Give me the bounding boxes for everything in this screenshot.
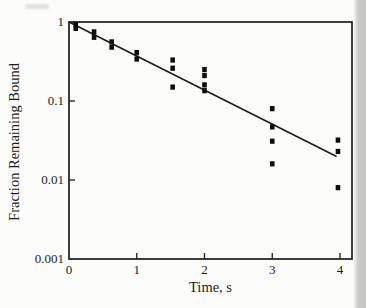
- x-tick-label: 3: [269, 263, 276, 277]
- data-point: [202, 67, 207, 72]
- data-point: [73, 26, 78, 31]
- data-point: [92, 35, 97, 40]
- data-point: [170, 57, 175, 62]
- data-point: [134, 50, 139, 55]
- data-point: [336, 149, 341, 154]
- data-point: [202, 88, 207, 93]
- data-point: [270, 106, 275, 111]
- data-point: [134, 56, 139, 61]
- y-tick-label: 0.001: [0, 252, 64, 266]
- y-axis-title: Fraction Remaining Bound: [6, 63, 23, 221]
- data-point: [336, 137, 341, 142]
- data-point: [270, 139, 275, 144]
- scanned-figure-page: 0123410.10.010.001 Time, s Fraction Rema…: [0, 0, 366, 308]
- data-point: [170, 84, 175, 89]
- x-tick-label: 1: [134, 263, 141, 277]
- plot-frame: [69, 22, 352, 259]
- data-point: [92, 29, 97, 34]
- data-point: [270, 161, 275, 166]
- data-point: [202, 73, 207, 78]
- x-tick-label: 0: [66, 263, 73, 277]
- data-point: [109, 39, 114, 44]
- data-point: [336, 185, 341, 190]
- x-tick-label: 4: [337, 263, 344, 277]
- x-tick-label: 2: [201, 263, 208, 277]
- y-tick-label: 1: [0, 15, 64, 29]
- data-point: [270, 124, 275, 129]
- data-point: [109, 45, 114, 50]
- data-point: [170, 66, 175, 71]
- x-axis-title: Time, s: [69, 279, 352, 296]
- data-point: [202, 82, 207, 87]
